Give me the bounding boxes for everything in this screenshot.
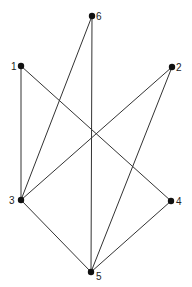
nodes-group: 123456 [9, 11, 182, 282]
node-5 [88, 269, 94, 275]
node-3 [18, 197, 24, 203]
node-label-2: 2 [176, 62, 182, 73]
edge-2-5 [91, 67, 172, 272]
edges-group [21, 16, 172, 272]
node-label-1: 1 [11, 61, 17, 72]
node-6 [89, 13, 95, 19]
node-label-5: 5 [96, 271, 102, 282]
edge-6-5 [91, 16, 92, 272]
node-label-6: 6 [96, 11, 102, 22]
node-label-4: 4 [176, 196, 182, 207]
graph-canvas: 123456 [0, 0, 192, 287]
node-2 [169, 64, 175, 70]
edge-6-3 [21, 16, 92, 200]
node-4 [168, 198, 174, 204]
edge-3-5 [21, 200, 91, 272]
edge-4-5 [91, 201, 171, 272]
node-1 [18, 63, 24, 69]
node-label-3: 3 [9, 195, 15, 206]
